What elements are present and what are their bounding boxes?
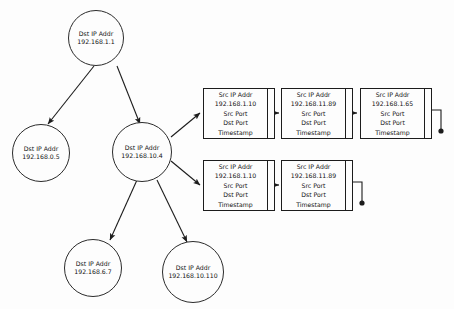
record-body: Src IP Addr 192.168.1.10 Src Port Dst Po… — [204, 89, 268, 138]
record-box[interactable]: Src IP Addr 192.168.1.10 Src Port Dst Po… — [203, 160, 275, 211]
record-field-dst-port: Dst Port — [223, 190, 248, 199]
record-value: 192.168.1.10 — [215, 171, 256, 180]
node-left-label: Dst IP Addr — [24, 145, 58, 153]
record-field-dst-port: Dst Port — [380, 118, 405, 127]
node-dst-192-168-0-5[interactable]: Dst IP Addr 192.168.0.5 — [12, 124, 70, 182]
record-value: 192.168.11.89 — [291, 99, 336, 108]
record-field-src-port: Src Port — [224, 181, 248, 190]
record-field-dst-port: Dst Port — [223, 118, 248, 127]
record-body: Src IP Addr 192.168.1.10 Src Port Dst Po… — [204, 161, 268, 210]
edge-root-to-left — [48, 66, 94, 124]
terminator-line-chain-top — [432, 110, 441, 130]
record-value: 192.168.1.10 — [215, 99, 256, 108]
record-value: 192.168.1.65 — [372, 99, 413, 108]
record-label: Src IP Addr — [219, 90, 253, 99]
node-lower1-label: Dst IP Addr — [76, 260, 110, 268]
record-body: Src IP Addr 192.168.1.65 Src Port Dst Po… — [361, 89, 425, 138]
node-root-value: 192.168.1.1 — [77, 38, 114, 46]
record-field-timestamp: Timestamp — [218, 128, 253, 137]
node-lower1-value: 192.168.6.7 — [74, 268, 111, 276]
terminator-line-chain-bottom — [353, 182, 362, 202]
node-dst-192-168-10-110[interactable]: Dst IP Addr 192.168.10.110 — [162, 241, 224, 303]
edge-center-to-chain-top — [171, 113, 200, 137]
edge-root-to-center — [117, 66, 140, 124]
record-label: Src IP Addr — [376, 90, 410, 99]
record-field-src-port: Src Port — [381, 109, 405, 118]
node-dst-192-168-6-7[interactable]: Dst IP Addr 192.168.6.7 — [64, 239, 122, 297]
record-label: Src IP Addr — [297, 162, 331, 171]
record-field-timestamp: Timestamp — [296, 128, 331, 137]
edge-center-to-chain-bottom — [171, 161, 200, 185]
record-field-src-port: Src Port — [302, 109, 326, 118]
record-field-src-port: Src Port — [302, 181, 326, 190]
node-center-value: 192.168.10.4 — [121, 152, 162, 160]
record-body: Src IP Addr 192.168.11.89 Src Port Dst P… — [282, 89, 346, 138]
node-center-label: Dst IP Addr — [125, 144, 159, 152]
record-box[interactable]: Src IP Addr 192.168.1.10 Src Port Dst Po… — [203, 88, 275, 139]
record-field-timestamp: Timestamp — [375, 128, 410, 137]
record-label: Src IP Addr — [219, 162, 253, 171]
record-field-timestamp: Timestamp — [218, 200, 253, 209]
node-root[interactable]: Dst IP Addr 192.168.1.1 — [68, 10, 124, 66]
terminator-dot-chain-top — [438, 128, 443, 133]
node-lower2-label: Dst IP Addr — [176, 264, 210, 272]
diagram-canvas: Dst IP Addr 192.168.1.1 Dst IP Addr 192.… — [0, 0, 454, 309]
record-field-src-port: Src Port — [224, 109, 248, 118]
edge-center-to-lower2 — [157, 180, 187, 242]
record-box[interactable]: Src IP Addr 192.168.11.89 Src Port Dst P… — [281, 88, 353, 139]
record-body: Src IP Addr 192.168.11.89 Src Port Dst P… — [282, 161, 346, 210]
record-field-timestamp: Timestamp — [296, 200, 331, 209]
node-left-value: 192.168.0.5 — [22, 153, 59, 161]
node-lower2-value: 192.168.10.110 — [168, 272, 217, 280]
node-dst-192-168-10-4[interactable]: Dst IP Addr 192.168.10.4 — [112, 122, 172, 182]
edge-center-to-lower1 — [110, 180, 137, 240]
record-box[interactable]: Src IP Addr 192.168.1.65 Src Port Dst Po… — [360, 88, 432, 139]
record-box[interactable]: Src IP Addr 192.168.11.89 Src Port Dst P… — [281, 160, 353, 211]
node-root-label: Dst IP Addr — [79, 30, 113, 38]
record-value: 192.168.11.89 — [291, 171, 336, 180]
record-field-dst-port: Dst Port — [301, 190, 326, 199]
record-label: Src IP Addr — [297, 90, 331, 99]
record-field-dst-port: Dst Port — [301, 118, 326, 127]
terminator-dot-chain-bottom — [359, 200, 364, 205]
